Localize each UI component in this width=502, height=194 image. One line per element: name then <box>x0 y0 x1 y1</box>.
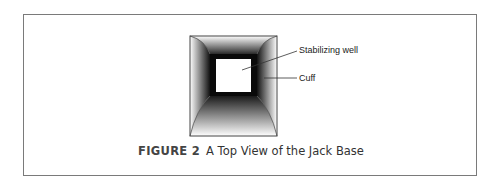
jack-base-top-view-illustration <box>0 0 502 194</box>
figure-title: A Top View of the Jack Base <box>206 144 364 158</box>
callout-cuff: Cuff <box>299 73 315 83</box>
callout-stabilizing-well: Stabilizing well <box>299 45 358 55</box>
figure-number: FIGURE 2 <box>138 144 200 158</box>
stabilizing-well-shape <box>210 54 257 96</box>
figure-caption: FIGURE 2A Top View of the Jack Base <box>0 144 502 158</box>
